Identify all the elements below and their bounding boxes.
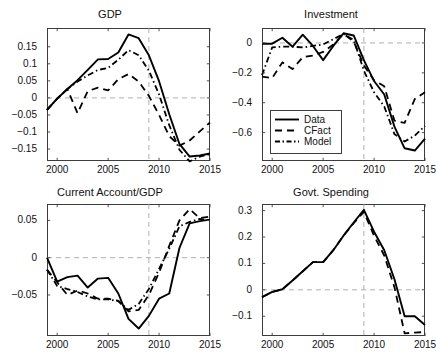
legend-key-cfact-icon bbox=[274, 125, 300, 136]
panel-current-account: Current Account/GDP 0.050−0.05 200020052… bbox=[0, 186, 218, 364]
series-model bbox=[47, 50, 210, 161]
panel-govt-spending: Govt. Spending 0.30.20.10−0.1 2000200520… bbox=[217, 186, 435, 364]
y-tick-label: −0.4 bbox=[232, 98, 252, 108]
y-tick-label: −0.1 bbox=[17, 127, 37, 137]
x-axis-govt-spending: 2000200520102015 bbox=[217, 339, 435, 351]
x-axis-investment: 2000200520102015 bbox=[217, 164, 435, 176]
x-tick-label: 2010 bbox=[148, 164, 170, 175]
y-axis-current-account: 0.050−0.05 bbox=[0, 204, 42, 336]
series-layer-gdp bbox=[47, 28, 210, 161]
legend-label-cfact: CFact bbox=[304, 125, 331, 136]
legend-entry-cfact: CFact bbox=[274, 125, 337, 136]
y-tick-label: 0.05 bbox=[18, 76, 37, 86]
legend-key-data-icon bbox=[274, 114, 300, 125]
x-tick-label: 2000 bbox=[261, 339, 283, 350]
x-axis-current-account: 2000200520102015 bbox=[0, 339, 218, 351]
y-tick-label: −0.2 bbox=[232, 68, 252, 78]
x-tick-label: 2000 bbox=[46, 339, 68, 350]
y-tick-label: −0.1 bbox=[232, 311, 252, 321]
plot-area-govt-spending bbox=[262, 204, 425, 336]
x-tick-label: 2005 bbox=[97, 164, 119, 175]
y-tick-label: 0 bbox=[31, 253, 37, 263]
y-tick-label: −0.6 bbox=[232, 128, 252, 138]
legend-entry-model: Model bbox=[274, 136, 337, 147]
y-tick-label: 0.05 bbox=[18, 215, 37, 225]
panel-title-gdp: GDP bbox=[10, 8, 210, 20]
series-cfact bbox=[47, 209, 210, 311]
legend-label-data: Data bbox=[304, 114, 325, 125]
y-tick-label: 0.1 bbox=[23, 59, 37, 69]
x-tick-label: 2000 bbox=[261, 164, 283, 175]
y-tick-label: −0.15 bbox=[12, 144, 37, 154]
legend-entry-data: Data bbox=[274, 114, 337, 125]
panel-title-govt-spending: Govt. Spending bbox=[237, 186, 425, 198]
y-tick-label: 0 bbox=[246, 285, 252, 295]
x-tick-label: 2005 bbox=[312, 164, 334, 175]
x-tick-label: 2010 bbox=[148, 339, 170, 350]
x-axis-gdp: 2000200520102015 bbox=[0, 164, 218, 176]
y-axis-investment: 0−0.2−0.4−0.6 bbox=[217, 28, 257, 161]
y-tick-label: 0.3 bbox=[238, 206, 252, 216]
legend-label-model: Model bbox=[304, 136, 331, 147]
y-axis-gdp: 0.150.10.050−0.05−0.1−0.15 bbox=[0, 28, 42, 161]
panel-title-investment: Investment bbox=[237, 8, 425, 20]
series-cfact bbox=[262, 212, 425, 333]
x-tick-label: 2005 bbox=[312, 339, 334, 350]
panel-gdp: GDP 0.150.10.050−0.05−0.1−0.15 200020052… bbox=[0, 8, 218, 184]
y-tick-label: 0 bbox=[246, 38, 252, 48]
panel-title-current-account: Current Account/GDP bbox=[10, 186, 210, 198]
x-tick-label: 2015 bbox=[414, 339, 436, 350]
y-tick-label: 0 bbox=[31, 93, 37, 103]
y-tick-label: −0.05 bbox=[12, 290, 37, 300]
x-tick-label: 2010 bbox=[363, 164, 385, 175]
x-tick-label: 2005 bbox=[97, 339, 119, 350]
x-tick-label: 2000 bbox=[46, 164, 68, 175]
y-tick-label: 0.15 bbox=[18, 42, 37, 52]
plot-area-investment: Data CFact Model bbox=[262, 28, 425, 161]
panel-investment: Investment 0−0.2−0.4−0.6 Data CFact bbox=[217, 8, 435, 184]
legend-key-model-icon bbox=[274, 136, 300, 147]
series-layer-govt-spending bbox=[262, 204, 425, 336]
legend: Data CFact Model bbox=[270, 110, 342, 154]
y-tick-label: 0.1 bbox=[238, 258, 252, 268]
plot-area-current-account bbox=[47, 204, 210, 336]
x-tick-label: 2010 bbox=[363, 339, 385, 350]
series-layer-current-account bbox=[47, 204, 210, 336]
series-data bbox=[47, 34, 210, 156]
series-data bbox=[262, 210, 425, 325]
y-tick-label: 0.2 bbox=[238, 232, 252, 242]
y-axis-govt-spending: 0.30.20.10−0.1 bbox=[217, 204, 257, 336]
x-tick-label: 2015 bbox=[414, 164, 436, 175]
plot-area-gdp bbox=[47, 28, 210, 161]
y-tick-label: −0.05 bbox=[12, 110, 37, 120]
